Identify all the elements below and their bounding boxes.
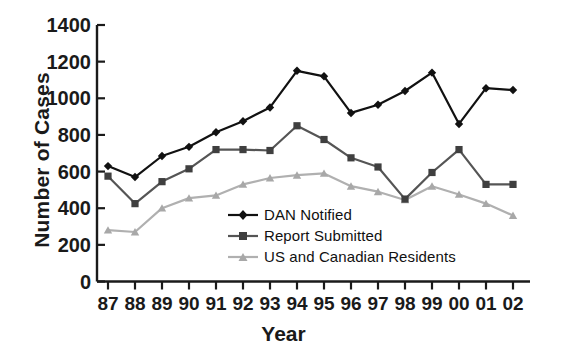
data-point-marker [482,181,489,188]
square-marker-icon [228,229,258,243]
data-point-marker [131,200,138,207]
chart-figure: Number of Cases Year 1400120010008006004… [0,0,567,362]
data-point-marker [374,100,382,108]
data-point-marker [509,86,517,94]
y-tick-label: 600 [27,162,91,182]
y-tick-label: 0 [27,272,91,292]
series-report-submitted [104,122,516,207]
data-point-marker [104,162,112,170]
data-point-marker [509,181,516,188]
x-tick-label: 02 [496,294,530,313]
data-point-marker [185,165,192,172]
chart-legend: DAN Notified Report Submitted US and Can… [228,205,456,268]
legend-item-report-submitted: Report Submitted [228,226,456,245]
y-tick-label: 200 [27,235,91,255]
legend-label: Report Submitted [264,227,382,244]
data-point-marker [374,163,381,170]
data-point-marker [428,169,435,176]
legend-item-dan-notified: DAN Notified [228,205,456,224]
data-point-marker [158,178,165,185]
data-point-marker [239,146,246,153]
data-point-marker [266,147,273,154]
x-axis-title: Year [0,322,567,346]
y-tick-label: 1200 [27,52,91,72]
diamond-marker-icon [228,208,258,222]
data-point-marker [185,143,193,151]
data-point-marker [455,146,462,153]
data-point-marker [212,146,219,153]
series-dan-notified [104,67,517,182]
data-point-marker [347,154,354,161]
data-point-marker [320,136,327,143]
data-point-marker [239,117,247,125]
y-tick-label: 800 [27,125,91,145]
triangle-marker-icon [228,250,258,264]
data-point-marker [104,173,111,180]
legend-label: US and Canadian Residents [264,248,456,265]
data-point-marker [212,128,220,136]
legend-item-us-canadian-residents: US and Canadian Residents [228,247,456,266]
legend-label: DAN Notified [264,206,352,223]
y-tick-label: 400 [27,198,91,218]
y-tick-label: 1400 [27,15,91,35]
y-tick-label: 1000 [27,88,91,108]
data-point-marker [428,182,436,189]
data-point-marker [293,122,300,129]
data-point-marker [401,195,408,202]
